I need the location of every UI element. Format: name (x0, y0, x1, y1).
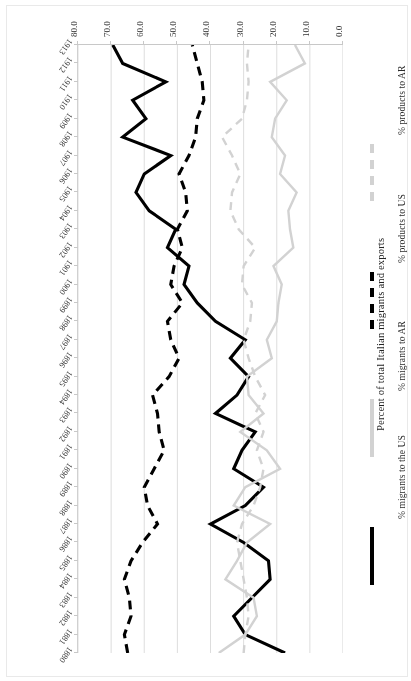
year-tick-mark (74, 62, 78, 63)
year-tick-label: 1899 (57, 295, 75, 315)
year-tick-mark (74, 578, 78, 579)
year-tick-label: 1909 (57, 111, 75, 131)
series-line (219, 45, 305, 653)
year-tick-mark (74, 394, 78, 395)
year-tick-mark (74, 413, 78, 414)
year-tick-mark (74, 155, 78, 156)
year-tick-label: 1887 (57, 516, 75, 536)
year-tick-label: 1911 (57, 74, 75, 93)
value-tick-label: 50.0 (168, 21, 178, 37)
legend-swatch (370, 271, 374, 329)
year-tick-label: 1902 (57, 240, 75, 260)
legend-swatch (370, 527, 374, 585)
year-tick-mark (74, 357, 78, 358)
year-tick-label: 1905 (57, 185, 75, 205)
year-tick-mark (74, 431, 78, 432)
year-tick-label: 1892 (57, 424, 75, 444)
legend-swatch (370, 143, 374, 201)
year-tick-label: 1896 (57, 350, 75, 370)
year-tick-label: 1906 (57, 166, 75, 186)
year-tick-label: 1884 (57, 571, 75, 591)
year-tick-mark (74, 468, 78, 469)
series-line (124, 45, 204, 653)
year-axis: 1880188118821883188418851886188718881889… (4, 45, 78, 653)
legend-label: % migrants to AR (397, 241, 407, 391)
year-tick-mark (74, 210, 78, 211)
year-tick-label: 1900 (57, 277, 75, 297)
year-tick-mark (74, 339, 78, 340)
year-tick-mark (74, 523, 78, 524)
legend-entry: % migrants to the US (353, 435, 397, 585)
year-tick-mark (74, 597, 78, 598)
year-tick-mark (74, 247, 78, 248)
year-tick-label: 1880 (57, 645, 75, 665)
year-tick-label: 1907 (57, 148, 75, 168)
year-tick-label: 1913 (57, 37, 75, 57)
year-tick-label: 1882 (57, 608, 75, 628)
year-tick-mark (74, 302, 78, 303)
year-tick-label: 1904 (57, 203, 75, 223)
year-tick-mark (74, 541, 78, 542)
year-tick-mark (74, 376, 78, 377)
year-tick-mark (74, 560, 78, 561)
value-tick-label: 70.0 (102, 21, 112, 37)
year-tick-label: 1897 (57, 332, 75, 352)
year-tick-mark (74, 634, 78, 635)
year-tick-mark (74, 228, 78, 229)
plot-svg (78, 45, 343, 653)
value-tick-label: 0.0 (334, 26, 344, 37)
legend-label: % migrants to the US (397, 369, 407, 519)
year-tick-mark (74, 44, 78, 45)
year-tick-label: 1893 (57, 406, 75, 426)
gridlines (78, 45, 343, 653)
year-tick-mark (74, 652, 78, 653)
legend-swatch (370, 399, 374, 457)
year-tick-label: 1912 (57, 56, 75, 76)
year-tick-label: 1901 (57, 258, 75, 278)
year-tick-label: 1888 (57, 498, 75, 518)
value-tick-label: 60.0 (135, 21, 145, 37)
year-tick-label: 1910 (57, 92, 75, 112)
year-tick-mark (74, 173, 78, 174)
year-tick-mark (74, 505, 78, 506)
year-tick-mark (74, 136, 78, 137)
year-tick-label: 1908 (57, 129, 75, 149)
year-tick-label: 1885 (57, 553, 75, 573)
series-lines (113, 45, 305, 653)
year-tick-label: 1886 (57, 535, 75, 555)
year-tick-label: 1883 (57, 590, 75, 610)
series-line (113, 45, 285, 653)
chart-figure: % migrants to the US% migrants to AR% pr… (0, 0, 411, 681)
year-tick-mark (74, 284, 78, 285)
year-tick-mark (74, 449, 78, 450)
legend-entry: % products to AR (353, 51, 397, 201)
plot-area (78, 45, 343, 653)
year-tick-mark (74, 191, 78, 192)
year-tick-label: 1895 (57, 369, 75, 389)
value-axis-line (78, 44, 343, 45)
year-tick-label: 1903 (57, 221, 75, 241)
year-tick-mark (74, 615, 78, 616)
year-tick-mark (74, 486, 78, 487)
year-tick-mark (74, 99, 78, 100)
rotated-figure-wrapper: % migrants to the US% migrants to AR% pr… (0, 0, 411, 681)
year-tick-mark (74, 118, 78, 119)
value-tick-label: 20.0 (268, 21, 278, 37)
year-tick-label: 1890 (57, 461, 75, 481)
legend-label: % products to US (397, 113, 407, 263)
year-tick-mark (74, 81, 78, 82)
year-tick-mark (74, 265, 78, 266)
year-tick-label: 1889 (57, 479, 75, 499)
year-tick-label: 1891 (57, 442, 75, 462)
year-tick-label: 1898 (57, 314, 75, 334)
value-tick-label: 30.0 (235, 21, 245, 37)
year-tick-mark (74, 320, 78, 321)
value-tick-label: 80.0 (69, 21, 79, 37)
year-tick-label: 1894 (57, 387, 75, 407)
value-axis: 0.010.020.030.040.050.060.070.080.0 (78, 1, 343, 45)
value-tick-label: 10.0 (301, 21, 311, 37)
year-tick-label: 1881 (57, 627, 75, 647)
value-axis-title: Percent of total Italian migrants and ex… (375, 238, 386, 431)
legend-label: % products to AR (397, 0, 407, 135)
value-tick-label: 40.0 (202, 21, 212, 37)
